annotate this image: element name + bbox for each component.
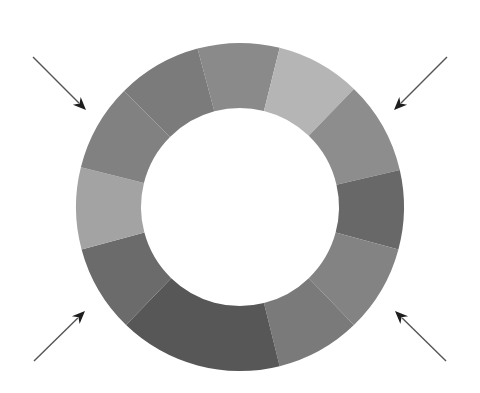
arrow-top-right-icon bbox=[394, 57, 447, 110]
arrow-shaft bbox=[402, 318, 446, 361]
segmented-ring bbox=[76, 43, 404, 371]
arrow-shaft bbox=[34, 318, 78, 361]
arrow-shaft bbox=[401, 57, 447, 103]
arrow-top-left-icon bbox=[33, 57, 86, 110]
arrow-shaft bbox=[33, 57, 79, 103]
arrow-bottom-left-icon bbox=[34, 311, 85, 361]
arrow-bottom-right-icon bbox=[395, 311, 446, 361]
ring-diagram bbox=[0, 0, 480, 393]
